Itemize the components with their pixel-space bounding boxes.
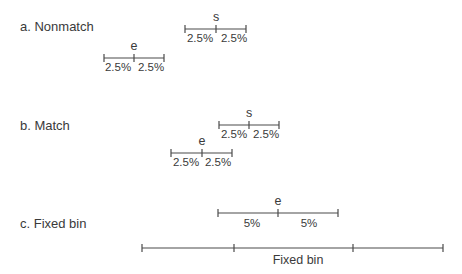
fixedbin-e-symbol: e: [275, 194, 282, 208]
match-e-left-label: 2.5%: [173, 156, 199, 168]
match-e-right-label: 2.5%: [205, 156, 231, 168]
panel-label-fixed-bin: c. Fixed bin: [20, 216, 86, 231]
fixed-bin-label: Fixed bin: [273, 253, 324, 267]
match-s-right-label: 2.5%: [253, 128, 279, 140]
nonmatch-e-right-label: 2.5%: [138, 61, 164, 73]
nonmatch-e-symbol: e: [131, 39, 138, 53]
match-s-left-label: 2.5%: [221, 128, 247, 140]
match-s-symbol: s: [246, 106, 252, 120]
nonmatch-s-right-label: 2.5%: [221, 32, 247, 44]
fixed-bin-axis: [142, 244, 443, 252]
match-e-symbol: e: [199, 134, 206, 148]
panel-label-nonmatch: a. Nonmatch: [20, 19, 94, 34]
nonmatch-s-symbol: s: [213, 10, 219, 24]
panel-label-match: b. Match: [20, 118, 70, 133]
fixedbin-e-interval: [218, 209, 338, 217]
nonmatch-s-left-label: 2.5%: [187, 32, 213, 44]
fixedbin-e-right-label: 5%: [301, 217, 318, 229]
fixedbin-e-left-label: 5%: [244, 217, 261, 229]
nonmatch-e-left-label: 2.5%: [105, 61, 131, 73]
